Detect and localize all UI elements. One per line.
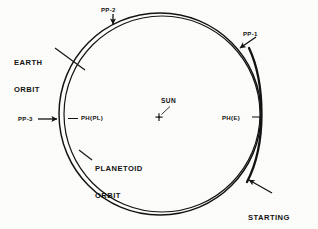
diagram-canvas — [0, 0, 318, 229]
pp1-arrow — [240, 37, 256, 48]
starting-point-label-line1: STARTING — [248, 214, 290, 223]
planetoid-orbit-label-line1: PLANETOID — [95, 165, 143, 174]
ph-e-label: PH(E) — [222, 114, 240, 121]
planetoid-orbit-leader-line — [79, 150, 92, 160]
earth-orbit-label-line2: ORBIT — [14, 86, 42, 95]
ph-pl-label: PH(PL) — [81, 114, 103, 121]
pp3-label: PP-3 — [18, 115, 33, 122]
earth-orbit-label: EARTH ORBIT — [14, 41, 42, 113]
starting-point-arrow — [249, 180, 272, 193]
pp2-label: PP-2 — [101, 6, 116, 13]
starting-point-label: STARTING POINT — [248, 196, 290, 229]
sun-leader-line — [162, 107, 171, 115]
sun-label: SUN — [161, 97, 176, 105]
earth-orbit-label-line1: EARTH — [14, 59, 42, 68]
pp1-label: PP-1 — [243, 30, 258, 37]
orbit-diagram-figure: EARTH ORBIT PLANETOID ORBIT STARTING POI… — [0, 0, 318, 229]
planetoid-orbit-label: PLANETOID ORBIT — [95, 147, 143, 219]
planetoid-orbit-label-line2: ORBIT — [95, 192, 143, 201]
